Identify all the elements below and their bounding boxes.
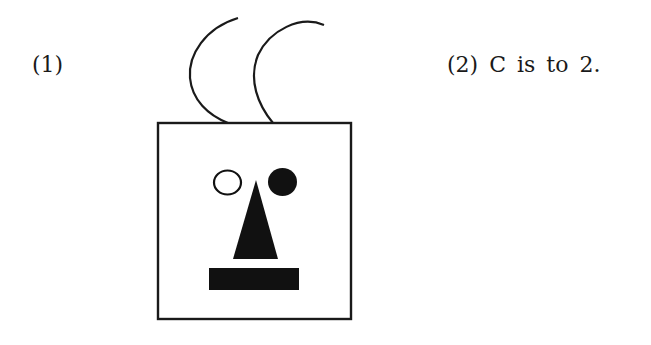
right-eye-filled-circle — [268, 168, 297, 196]
right-antenna — [254, 22, 324, 123]
mouth-rectangle — [209, 268, 299, 290]
left-antenna — [190, 18, 238, 123]
face-figure — [0, 0, 651, 345]
left-eye-open-circle — [214, 171, 241, 195]
